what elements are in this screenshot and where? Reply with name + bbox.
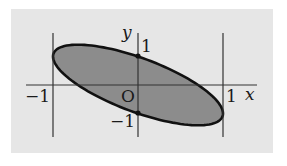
y-axis-label: y xyxy=(122,24,132,41)
x-axis-label: x xyxy=(245,86,255,103)
y-tick-1-label: 1 xyxy=(141,38,152,55)
x-tick-minus-1-label: −1 xyxy=(25,88,50,105)
x-tick-1-label: 1 xyxy=(226,88,237,105)
origin-label: O xyxy=(121,88,135,105)
point-y-1 xyxy=(135,53,140,58)
point-y-minus-1 xyxy=(135,110,140,115)
diagram-canvas xyxy=(0,0,287,166)
y-tick-minus-1-label: −1 xyxy=(110,113,135,130)
